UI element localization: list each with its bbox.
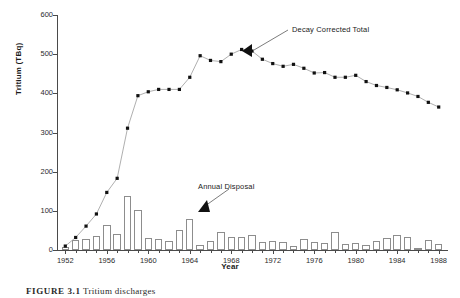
x-axis-title: Year [0,262,460,271]
series-markers [64,48,441,248]
y-tick-label: 200 [27,167,53,176]
caption-prefix: FIGURE 3.1 [26,286,81,296]
series-marker-decay-corrected [333,76,336,79]
series-marker-decay-corrected [365,80,368,83]
y-tick-label: 0 [27,245,53,254]
annotation-decay-corrected-total: Decay Corrected Total [292,25,369,34]
y-tick-label: 300 [27,128,53,137]
line-series-decay-corrected-total [57,15,447,251]
series-marker-decay-corrected [116,177,119,180]
series-marker-decay-corrected [437,105,440,108]
series-marker-decay-corrected [64,244,67,247]
series-marker-decay-corrected [136,94,139,97]
y-tick-label: 500 [27,49,53,58]
y-tick-label: 100 [27,206,53,215]
series-marker-decay-corrected [74,236,77,239]
figure-caption: FIGURE 3.1 Tritium discharges [26,286,446,296]
series-marker-decay-corrected [406,91,409,94]
series-marker-decay-corrected [126,127,129,130]
series-marker-decay-corrected [178,88,181,91]
annotation-annual-disposal: Annual Disposal [198,182,254,191]
series-marker-decay-corrected [396,88,399,91]
series-marker-decay-corrected [385,86,388,89]
figure-root: Tritium (TBq) 0100200300400500600 195219… [0,0,460,298]
series-marker-decay-corrected [157,88,160,91]
series-marker-decay-corrected [240,48,243,51]
series-marker-decay-corrected [147,90,150,93]
series-marker-decay-corrected [167,88,170,91]
series-line-path [65,49,438,246]
series-marker-decay-corrected [271,62,274,65]
y-axis-title: Tritium (TBq) [14,43,23,95]
series-marker-decay-corrected [416,95,419,98]
series-marker-decay-corrected [292,63,295,66]
plot-area: 0100200300400500600 19521956196019641968… [57,15,447,250]
series-marker-decay-corrected [84,225,87,228]
series-marker-decay-corrected [282,65,285,68]
series-marker-decay-corrected [230,53,233,56]
series-marker-decay-corrected [323,71,326,74]
series-marker-decay-corrected [209,59,212,62]
series-marker-decay-corrected [188,76,191,79]
series-marker-decay-corrected [219,60,222,63]
series-marker-decay-corrected [344,76,347,79]
series-marker-decay-corrected [354,74,357,77]
series-marker-decay-corrected [261,58,264,61]
series-marker-decay-corrected [427,101,430,104]
series-marker-decay-corrected [313,71,316,74]
y-tick-label: 600 [27,10,53,19]
series-marker-decay-corrected [95,212,98,215]
series-marker-decay-corrected [375,84,378,87]
series-marker-decay-corrected [199,54,202,57]
series-marker-decay-corrected [250,49,253,52]
series-marker-decay-corrected [302,67,305,70]
series-marker-decay-corrected [105,191,108,194]
y-tick-label: 400 [27,88,53,97]
caption-text: Tritium discharges [83,286,156,296]
